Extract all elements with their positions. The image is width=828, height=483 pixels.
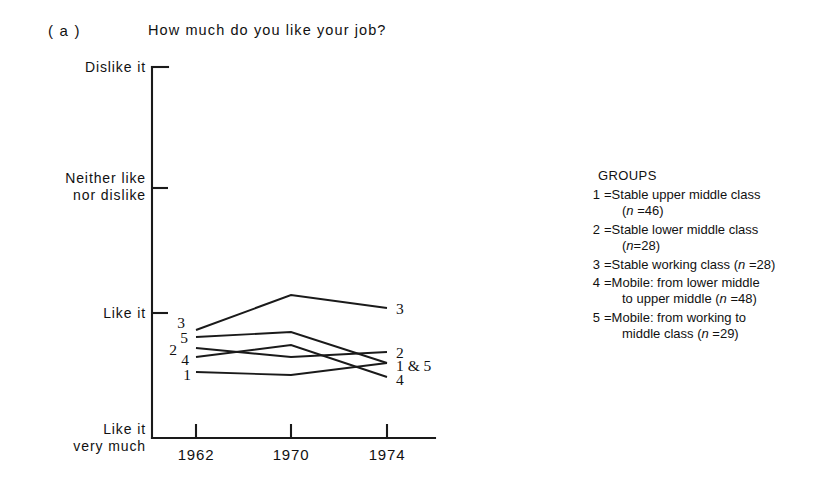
x-label-1970: 1970 [273,446,310,463]
series-line-5 [196,332,387,363]
point-label-left-1: 1 [183,366,191,383]
legend-item-1-line1: =Stable upper middle class [604,187,761,202]
y-label-neither-2: nor dislike [73,187,146,203]
legend-item-5-line2: middle class (n =29) [622,326,739,341]
point-label-left-2: 2 [169,341,177,358]
legend-item-5-line1: =Mobile: from working to [604,310,746,325]
legend-item-4-line1: =Mobile: from lower middle [604,275,760,290]
legend-item-1-line2: (n =46) [622,203,664,218]
legend-key-1: 1 [593,187,600,202]
y-label-neither-1: Neither like [65,170,146,186]
legend-item-4-line2: to upper middle (n =48) [622,291,757,306]
legend-key-5: 5 [593,310,600,325]
legend-item-2-line2: (n=28) [622,238,660,253]
legend-key-3: 3 [593,257,600,272]
figure-panel-a: ( a ) How much do you like your job? Dis… [0,0,828,483]
y-label-likevm-1: Like it [103,421,146,437]
y-label-likevm-2: very much [73,438,146,454]
legend-key-4: 4 [593,275,600,290]
y-label-like: Like it [103,305,146,321]
chart-title: How much do you like your job? [148,22,387,38]
x-label-1974: 1974 [369,446,406,463]
legend: GROUPS 1 =Stable upper middle class (n =… [593,168,776,341]
legend-title: GROUPS [598,168,657,183]
y-label-dislike: Dislike it [85,59,146,75]
x-label-1962: 1962 [178,446,215,463]
legend-item-3-line1: =Stable working class (n =28) [604,257,775,272]
point-label-right-4: 4 [396,371,404,388]
panel-label: ( a ) [48,22,81,39]
point-label-left-5: 5 [180,329,188,346]
legend-key-2: 2 [593,222,600,237]
series-line-3 [196,295,387,330]
legend-item-2-line1: =Stable lower middle class [604,222,759,237]
series-line-1 [196,363,387,375]
point-label-right-3: 3 [396,300,404,317]
